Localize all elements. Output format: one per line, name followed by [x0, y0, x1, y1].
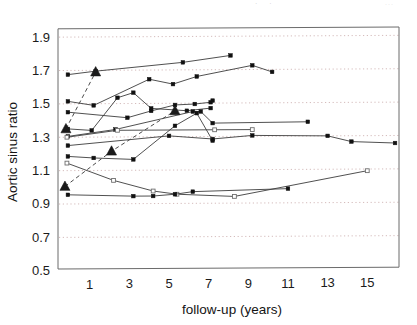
- series-line: [68, 93, 211, 131]
- marker-filled-square: [286, 187, 290, 191]
- plot-frame: [58, 27, 399, 269]
- x-tick-label: 1: [86, 277, 93, 292]
- marker-filled-square: [66, 100, 70, 104]
- marker-filled-square: [149, 107, 153, 111]
- marker-filled-square: [66, 193, 70, 197]
- marker-filled-square: [147, 77, 151, 81]
- y-tick-label: 1.9: [32, 30, 50, 45]
- axes-box: [58, 27, 399, 269]
- x-tick-label: 5: [165, 276, 172, 291]
- y-tick-label: 1.7: [32, 63, 50, 78]
- marker-filled-square: [191, 190, 195, 194]
- gridline: [59, 169, 399, 171]
- marker-filled-square: [171, 82, 175, 86]
- series-mean-trend-b: [60, 105, 180, 190]
- y-axis-tick-labels: 0.50.70.91.11.31.51.71.9: [32, 30, 50, 279]
- aortic-sinus-ratio-scatter-line-chart: 0.50.70.91.11.31.51.71.9 13579111315 fol…: [0, 0, 417, 325]
- marker-filled-square: [193, 102, 197, 106]
- y-tick-label: 1.5: [32, 96, 50, 111]
- marker-open-square: [250, 128, 254, 132]
- marker-filled-square: [173, 124, 177, 128]
- marker-filled-square: [211, 139, 215, 143]
- gridline: [59, 102, 399, 104]
- marker-filled-square: [211, 99, 215, 103]
- marker-filled-square: [326, 134, 330, 138]
- series-line: [65, 111, 175, 187]
- marker-open-square: [365, 169, 369, 173]
- marker-filled-square: [181, 61, 185, 65]
- marker-triangle: [107, 146, 117, 155]
- series-patient-9: [65, 161, 369, 198]
- marker-filled-square: [250, 64, 254, 68]
- marker-filled-square: [167, 134, 171, 138]
- x-tick-label: 7: [205, 276, 212, 291]
- y-tick-label: 1.1: [32, 163, 50, 178]
- x-tick-label: 3: [126, 276, 133, 291]
- y-tick-label: 0.7: [32, 230, 50, 245]
- marker-filled-square: [132, 158, 136, 162]
- marker-filled-square: [195, 111, 199, 115]
- marker-filled-square: [126, 116, 130, 120]
- marker-filled-square: [173, 192, 177, 196]
- marker-filled-square: [270, 70, 274, 74]
- y-tick-label: 1.3: [32, 130, 50, 145]
- marker-filled-square: [350, 140, 354, 144]
- series-line: [68, 101, 213, 118]
- gridline: [59, 202, 399, 204]
- gridline: [59, 35, 399, 37]
- marker-filled-square: [306, 120, 310, 124]
- marker-filled-square: [229, 54, 233, 58]
- x-tick-label: 13: [320, 275, 334, 290]
- marker-filled-square: [132, 194, 136, 198]
- marker-filled-square: [116, 96, 120, 100]
- marker-filled-square: [185, 109, 189, 113]
- marker-triangle: [60, 181, 70, 190]
- x-axis-title: follow-up (years): [182, 302, 282, 317]
- scan-artifact-header-right: ···: [385, 1, 394, 7]
- y-tick-label: 0.5: [32, 263, 50, 278]
- marker-open-square: [151, 189, 155, 193]
- chart-figure: · · ··· 0.50.70.91.11.31.51.71.9 1357911…: [0, 0, 417, 325]
- gridline: [59, 135, 399, 137]
- x-axis-tick-labels: 13579111315: [86, 275, 374, 291]
- gridline: [59, 236, 399, 238]
- series-patient-4: [66, 91, 212, 132]
- x-tick-label: 15: [360, 275, 374, 290]
- marker-filled-square: [132, 91, 136, 95]
- marker-open-square: [112, 178, 116, 182]
- marker-open-square: [65, 161, 69, 165]
- marker-filled-square: [211, 121, 215, 125]
- series-patient-1: [66, 54, 232, 77]
- marker-filled-square: [199, 110, 203, 114]
- series-line: [68, 113, 213, 159]
- data-series-layer: [60, 54, 397, 199]
- marker-filled-square: [393, 141, 397, 145]
- marker-filled-square: [250, 134, 254, 138]
- marker-filled-square: [191, 110, 195, 114]
- series-line: [66, 72, 96, 129]
- series-line: [68, 55, 231, 74]
- series-patient-5: [66, 110, 309, 139]
- grid-lines: [59, 35, 399, 237]
- marker-filled-square: [66, 155, 70, 159]
- marker-filled-square: [92, 104, 96, 108]
- series-patient-7: [66, 134, 397, 148]
- y-axis-title: Aortic sinus ratio: [5, 102, 20, 202]
- marker-filled-square: [151, 194, 155, 198]
- series-line: [67, 130, 252, 138]
- marker-open-square: [233, 195, 237, 199]
- marker-filled-square: [66, 73, 70, 77]
- marker-filled-square: [90, 129, 94, 133]
- marker-open-square: [65, 135, 69, 139]
- x-tick-label: 9: [245, 276, 252, 291]
- marker-filled-square: [92, 156, 96, 160]
- marker-open-square: [213, 128, 217, 132]
- marker-filled-square: [66, 110, 70, 114]
- x-tick-label: 11: [281, 276, 295, 291]
- series-patient-3: [66, 99, 214, 120]
- scan-artifact-header-left: · ·: [255, 0, 277, 7]
- marker-filled-square: [195, 75, 199, 79]
- y-tick-label: 0.9: [32, 196, 50, 211]
- marker-filled-square: [209, 106, 213, 110]
- marker-filled-square: [66, 144, 70, 148]
